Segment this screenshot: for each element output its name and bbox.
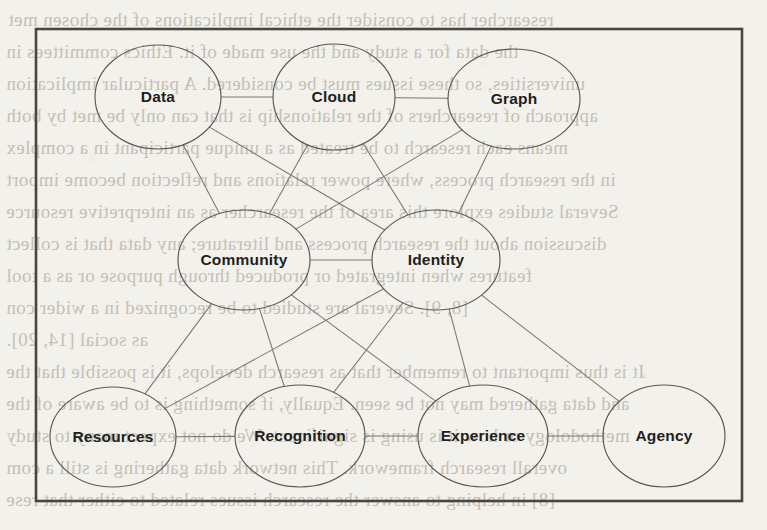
graph-node-community[interactable]: Community xyxy=(178,210,310,310)
graph-edge-identity-recognition xyxy=(334,303,403,393)
graph-edge-identity-experience xyxy=(449,309,470,386)
graph-node-agency[interactable]: Agency xyxy=(603,385,725,487)
graph-edge-data-identity xyxy=(209,127,384,230)
graph-edge-graph-community xyxy=(296,130,462,229)
graph-edge-data-community xyxy=(183,145,219,214)
node-label-agency: Agency xyxy=(635,427,692,444)
graph-node-cloud[interactable]: Cloud xyxy=(273,44,395,150)
node-label-data: Data xyxy=(141,88,176,105)
graph-edge-identity-agency xyxy=(482,295,620,401)
graph-node-data[interactable]: Data xyxy=(95,45,221,149)
node-label-experience: Experience xyxy=(441,427,526,444)
concept-network-diagram: DataCloudGraphCommunityIdentityResources… xyxy=(0,0,767,530)
node-label-graph: Graph xyxy=(491,90,538,107)
graph-edge-cloud-identity xyxy=(363,144,408,216)
graph-edge-community-resources xyxy=(145,304,212,394)
node-label-identity: Identity xyxy=(408,251,465,268)
graph-edge-cloud-graph xyxy=(395,98,448,99)
node-label-resources: Resources xyxy=(72,428,153,445)
node-label-recognition: Recognition xyxy=(254,427,346,444)
graph-node-graph[interactable]: Graph xyxy=(448,49,580,149)
graph-edge-cloud-community xyxy=(269,145,307,214)
node-layer: DataCloudGraphCommunityIdentityResources… xyxy=(50,44,725,487)
graph-node-recognition[interactable]: Recognition xyxy=(235,385,365,487)
graph-node-experience[interactable]: Experience xyxy=(418,385,548,487)
graph-node-identity[interactable]: Identity xyxy=(372,210,500,310)
node-label-cloud: Cloud xyxy=(312,88,357,105)
graph-edge-community-experience xyxy=(291,295,435,401)
node-label-community: Community xyxy=(200,251,287,268)
graph-edge-community-recognition xyxy=(259,309,284,387)
graph-node-resources[interactable]: Resources xyxy=(50,387,176,487)
graph-edge-identity-resources xyxy=(165,289,384,409)
graph-edge-graph-identity xyxy=(459,146,492,213)
